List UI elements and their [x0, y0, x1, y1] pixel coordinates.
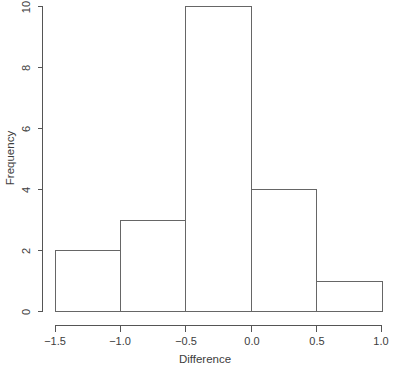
x-axis-title: Difference: [179, 353, 231, 365]
histogram-bar: [317, 282, 383, 312]
histogram-bar: [252, 190, 317, 312]
x-tick-label: 0.5: [309, 335, 324, 347]
x-tick-label: 1.0: [373, 335, 388, 347]
y-tick-label: 4: [20, 187, 32, 193]
x-tick-label: 0.0: [244, 335, 259, 347]
y-tick-label: 10: [20, 1, 32, 13]
y-tick-label: 2: [20, 248, 32, 254]
x-tick-label: −1.0: [109, 335, 131, 347]
y-tick-label: 6: [20, 126, 32, 132]
histogram-figure: 0 2 4 6 8 10 Frequency −1.5 −1.0 −0.5 0.…: [0, 0, 393, 368]
y-tick-label: 8: [20, 65, 32, 71]
y-axis-title: Frequency: [4, 131, 16, 186]
histogram-bar: [186, 7, 252, 312]
histogram-canvas: 0 2 4 6 8 10 Frequency −1.5 −1.0 −0.5 0.…: [0, 0, 393, 368]
y-tick-label: 0: [20, 309, 32, 315]
x-tick-label: −1.5: [44, 335, 66, 347]
histogram-bar: [121, 221, 186, 312]
x-tick-label: −0.5: [175, 335, 197, 347]
histogram-bar: [56, 251, 121, 312]
